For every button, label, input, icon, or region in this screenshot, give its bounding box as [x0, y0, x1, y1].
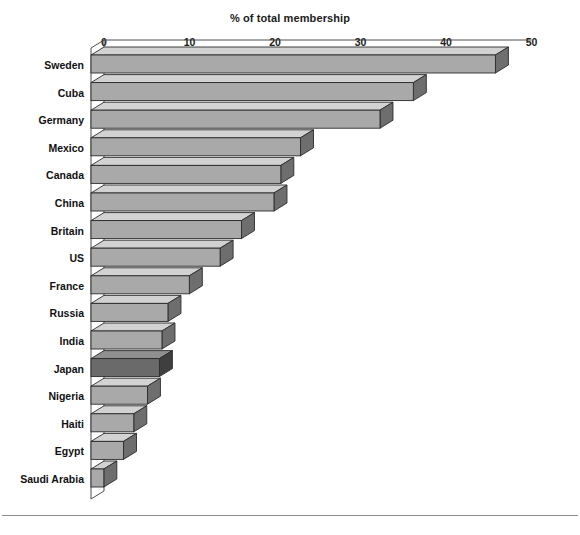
bar-chart: % of total membership 01020304050 Sweden…	[0, 0, 580, 535]
bar-china	[91, 185, 287, 211]
bar-france	[91, 268, 202, 294]
plot-area	[0, 0, 580, 535]
bar-india	[91, 323, 175, 349]
bar-germany	[91, 102, 393, 128]
bar-sweden	[91, 47, 508, 73]
bar-egypt	[91, 433, 136, 459]
bar-britain	[91, 213, 254, 239]
bar-japan	[91, 351, 172, 377]
bar-russia	[91, 295, 181, 321]
footer-divider	[2, 515, 578, 516]
bar-saudi-arabia	[91, 461, 117, 487]
bar-mexico	[91, 130, 313, 156]
bar-haiti	[91, 406, 147, 432]
bar-cuba	[91, 75, 426, 101]
bar-us	[91, 240, 233, 266]
bar-canada	[91, 157, 294, 183]
bar-nigeria	[91, 378, 160, 404]
